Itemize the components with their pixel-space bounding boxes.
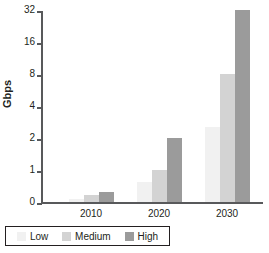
legend-swatch: [17, 232, 26, 241]
y-tick-label: 0: [29, 196, 35, 207]
legend-item[interactable]: Low: [17, 231, 48, 242]
x-tick-label: 2010: [61, 208, 121, 219]
x-tick-label: 2020: [129, 208, 189, 219]
y-tick-mark: [37, 203, 42, 205]
y-tick-mark: [37, 11, 42, 13]
bar-chart: Gbps 321684210 201020202030 LowMediumHig…: [0, 0, 269, 253]
y-tick-label: 8: [29, 68, 35, 79]
y-tick-label: 4: [29, 100, 35, 111]
bar-groups: [43, 8, 264, 206]
y-tick-label: 1: [29, 164, 35, 175]
y-tick-label: 32: [24, 4, 35, 15]
y-tick-label: 2: [29, 132, 35, 143]
x-tick-label: 2030: [197, 208, 257, 219]
bar: [99, 192, 114, 202]
bar: [167, 138, 182, 202]
y-tick-mark: [37, 107, 42, 109]
y-tick-label: 16: [24, 36, 35, 47]
legend-swatch: [125, 232, 134, 241]
bar: [152, 170, 167, 202]
y-axis-title: Gbps: [1, 69, 13, 119]
bar: [205, 127, 220, 202]
bar: [84, 195, 99, 202]
legend-label: Low: [30, 231, 48, 242]
plot-area: 321684210 201020202030: [41, 8, 263, 206]
legend-item[interactable]: Medium: [62, 231, 111, 242]
bar-group: [205, 10, 250, 202]
bar-group: [137, 10, 182, 202]
y-tick-mark: [37, 171, 42, 173]
legend-label: Medium: [75, 231, 111, 242]
y-tick-mark: [37, 75, 42, 77]
y-tick-mark: [37, 139, 42, 141]
bar: [235, 10, 250, 202]
bar: [137, 182, 152, 202]
legend-label: High: [138, 231, 159, 242]
bar: [69, 199, 84, 202]
bar: [220, 74, 235, 202]
chart-legend: LowMediumHigh: [5, 226, 170, 246]
bar-group: [69, 10, 114, 202]
legend-swatch: [62, 232, 71, 241]
y-tick-mark: [37, 43, 42, 45]
legend-item[interactable]: High: [125, 231, 159, 242]
